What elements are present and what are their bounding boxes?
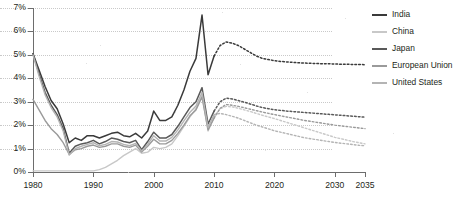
legend-label: United States	[392, 78, 442, 87]
legend-item-european-union[interactable]: European Union	[372, 57, 446, 74]
series-line-india-forecast	[214, 42, 365, 65]
series-line-united-states-history	[33, 55, 214, 155]
legend-item-japan[interactable]: Japan	[372, 40, 446, 57]
legend-item-china[interactable]: China	[372, 23, 446, 40]
legend-swatch-icon	[372, 82, 387, 84]
legend-swatch-icon	[372, 31, 387, 33]
series-line-china-history	[33, 95, 214, 171]
legend-swatch-icon	[372, 14, 387, 16]
series-line-united-states-forecast	[214, 113, 365, 145]
legend-label: India	[392, 10, 410, 19]
legend-swatch-icon	[372, 65, 387, 67]
legend: IndiaChinaJapanEuropean UnionUnited Stat…	[372, 6, 446, 91]
legend-item-united-states[interactable]: United States	[372, 74, 446, 91]
series-line-china-forecast	[214, 106, 365, 143]
legend-swatch-icon	[372, 48, 387, 50]
legend-item-india[interactable]: India	[372, 6, 446, 23]
legend-label: European Union	[392, 61, 453, 70]
legend-label: Japan	[392, 44, 415, 53]
legend-label: China	[392, 27, 414, 36]
